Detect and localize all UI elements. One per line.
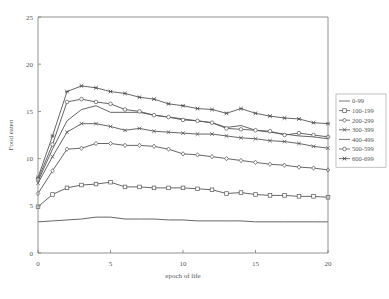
circle-marker-icon	[196, 119, 200, 123]
square-marker-icon	[210, 188, 214, 192]
diamond-marker-icon	[210, 155, 214, 159]
diamond-marker-icon	[94, 141, 98, 145]
x-tick-label: 15	[252, 260, 260, 268]
diamond-marker-icon	[268, 162, 272, 166]
square-marker-icon	[283, 194, 287, 198]
star-marker-icon	[138, 95, 142, 99]
star-marker-icon	[239, 107, 243, 111]
x-marker-icon	[51, 155, 55, 159]
square-marker-icon	[312, 195, 316, 199]
circle-marker-icon	[210, 121, 214, 125]
circle-marker-icon	[80, 97, 84, 101]
diamond-marker-icon	[167, 147, 171, 151]
x-tick-label: 5	[109, 260, 113, 268]
square-marker-icon	[80, 183, 84, 187]
diamond-marker-icon	[123, 143, 127, 147]
square-marker-icon	[239, 191, 243, 195]
square-marker-icon	[109, 180, 113, 184]
series-line	[38, 217, 328, 222]
series-500-599	[36, 97, 330, 181]
square-marker-icon	[225, 192, 229, 196]
legend-label: 0-99	[352, 97, 364, 104]
square-marker-icon	[152, 186, 156, 190]
star-marker-icon	[94, 86, 98, 90]
series-100-199	[36, 180, 330, 208]
x-marker-icon	[65, 130, 69, 134]
star-marker-icon	[210, 108, 214, 112]
diamond-marker-icon	[80, 146, 84, 150]
star-marker-icon	[181, 104, 185, 108]
circle-marker-icon	[268, 129, 272, 133]
star-marker-icon	[268, 114, 272, 118]
circle-marker-icon	[283, 133, 287, 137]
circle-marker-icon	[297, 131, 301, 135]
square-marker-icon	[181, 186, 185, 190]
y-tick-label: 20	[26, 61, 34, 69]
legend-label: 500-599	[352, 145, 374, 152]
star-marker-icon	[225, 111, 229, 115]
diamond-marker-icon	[239, 158, 243, 162]
circle-marker-icon	[123, 108, 127, 112]
circle-marker-icon	[109, 102, 113, 106]
star-marker-icon	[297, 117, 301, 121]
y-tick-label: 25	[26, 14, 34, 22]
y-tick-label: 0	[30, 250, 34, 258]
x-axis-label: epoch of life	[165, 272, 200, 280]
square-marker-icon	[94, 182, 98, 186]
circle-marker-icon	[167, 115, 171, 119]
square-marker-icon	[254, 193, 258, 197]
square-marker-icon	[51, 193, 55, 197]
circle-marker-icon	[343, 147, 347, 151]
star-marker-icon	[123, 92, 127, 96]
circle-marker-icon	[94, 100, 98, 104]
star-marker-icon	[152, 97, 156, 101]
line-chart: 051015200510152025 Food eaten epoch of l…	[0, 0, 389, 299]
circle-marker-icon	[152, 113, 156, 117]
circle-marker-icon	[239, 128, 243, 132]
axes: 051015200510152025	[26, 14, 332, 269]
square-marker-icon	[138, 185, 142, 189]
diamond-marker-icon	[254, 160, 258, 164]
diamond-marker-icon	[138, 143, 142, 147]
diamond-marker-icon	[225, 156, 229, 160]
legend: 0-99100-199200-299300-399400-499500-5996…	[336, 94, 386, 167]
square-marker-icon	[167, 186, 171, 190]
y-tick-label: 5	[30, 202, 34, 210]
square-marker-icon	[123, 185, 127, 189]
legend-label: 300-399	[352, 126, 374, 133]
square-marker-icon	[268, 194, 272, 198]
diamond-marker-icon	[109, 141, 113, 145]
diamond-marker-icon	[181, 152, 185, 156]
legend-label: 100-199	[352, 107, 374, 114]
legend-label: 600-699	[352, 155, 374, 162]
star-marker-icon	[283, 116, 287, 120]
square-marker-icon	[343, 109, 347, 113]
x-tick-label: 10	[180, 260, 188, 268]
star-marker-icon	[80, 84, 84, 88]
plot-area	[36, 84, 330, 222]
y-tick-label: 10	[26, 155, 34, 163]
legend-label: 400-499	[352, 136, 374, 143]
circle-marker-icon	[65, 100, 69, 104]
diamond-marker-icon	[283, 163, 287, 167]
square-marker-icon	[65, 186, 69, 190]
star-marker-icon	[109, 90, 113, 94]
x-tick-label: 0	[36, 260, 40, 268]
star-marker-icon	[312, 121, 316, 125]
y-tick-label: 15	[26, 108, 34, 116]
star-marker-icon	[196, 107, 200, 111]
square-marker-icon	[196, 187, 200, 191]
series-line	[38, 106, 328, 182]
circle-marker-icon	[254, 128, 258, 132]
square-marker-icon	[297, 195, 301, 199]
diamond-marker-icon	[152, 144, 156, 148]
star-marker-icon	[167, 102, 171, 106]
circle-marker-icon	[138, 110, 142, 114]
x-tick-label: 20	[325, 260, 333, 268]
circle-marker-icon	[225, 127, 229, 131]
y-axis-label: Food eaten	[7, 119, 15, 150]
star-marker-icon	[254, 111, 258, 115]
circle-marker-icon	[181, 118, 185, 122]
circle-marker-icon	[51, 143, 55, 147]
series-400-499	[38, 106, 328, 182]
